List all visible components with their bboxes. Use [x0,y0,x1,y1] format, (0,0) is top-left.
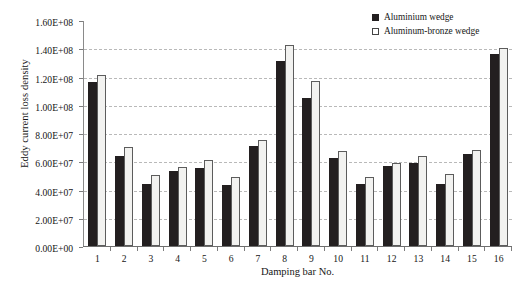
legend-label-series-a: Aluminium wedge [384,10,453,24]
x-axis-tick [138,247,165,251]
legend-swatch-icon-series-a [372,14,379,21]
x-axis-label: 9 [298,253,325,267]
x-axis-tick [111,247,138,251]
bar-series-b [231,177,240,246]
x-axis-label: 14 [432,253,459,267]
bar-group [352,21,379,246]
bar-group [245,21,272,246]
x-axis-label: 12 [378,253,405,267]
eddy-current-loss-density-chart: Eddy current loss density 0.00E+002.00E+… [0,0,524,294]
x-axis-label: 7 [245,253,272,267]
bar-group [405,21,432,246]
y-axis-tick: 2.00E+07 [79,219,83,220]
y-axis-tick-label: 1.00E+08 [35,101,73,112]
bar-series-a [88,82,97,246]
bar-series-a [409,163,418,246]
x-axis-tick [84,247,111,251]
bar-series-b [178,167,187,246]
x-axis-label: 16 [485,253,512,267]
bar-series-b [204,160,213,246]
x-axis-label: 1 [84,253,111,267]
y-axis-tick: 1.00E+08 [79,106,83,107]
bar-series-a [302,98,311,246]
bar-group [485,21,512,246]
x-axis-tick [164,247,191,251]
y-axis-tick: 0.00E+00 [79,247,83,248]
bar-group [111,21,138,246]
bar-group [271,21,298,246]
x-axis-title: Damping bar No. [83,266,512,277]
bar-series-b [151,175,160,246]
y-axis-tick-label: 0.00E+00 [35,243,73,254]
bar-series-b [472,150,481,246]
x-axis-tick [298,247,325,251]
bar-group [191,21,218,246]
bar-group [138,21,165,246]
x-axis-label: 5 [191,253,218,267]
x-axis-tick [432,247,459,251]
plot-area: 0.00E+002.00E+074.00E+076.00E+078.00E+07… [83,21,512,247]
bar-group [325,21,352,246]
bar-series-b [499,48,508,246]
x-axis-tick [405,247,432,251]
x-axis-label: 15 [459,253,486,267]
y-axis-tick-label: 2.00E+07 [35,214,73,225]
bar-series-b [445,174,454,246]
bar-series-a [329,158,338,246]
legend-item-series-b: Aluminum-bronze wedge [372,24,479,38]
bar-series-b [365,177,374,246]
x-axis-tick [459,247,486,251]
y-axis-tick: 8.00E+07 [79,134,83,135]
y-axis-tick-label: 1.40E+08 [35,45,73,56]
legend: Aluminium wedge Aluminum-bronze wedge [372,10,479,38]
y-axis-tick: 1.40E+08 [79,49,83,50]
y-axis-tick: 6.00E+07 [79,162,83,163]
x-axis-labels: 12345678910111213141516 [84,253,512,267]
legend-swatch-icon-series-b [372,28,379,35]
bar-series-b [285,45,294,246]
bar-series-b [97,75,106,246]
bar-group [298,21,325,246]
x-axis-label: 2 [111,253,138,267]
x-axis-ticks [84,247,512,251]
bar-series-b [124,147,133,246]
bar-series-a [195,168,204,246]
y-axis-tick: 1.60E+08 [79,21,83,22]
x-axis-tick [352,247,379,251]
bar-series-a [249,146,258,246]
x-axis-label: 8 [271,253,298,267]
bar-series-a [169,171,178,246]
y-axis-tick-label: 6.00E+07 [35,158,73,169]
legend-item-series-a: Aluminium wedge [372,10,479,24]
bar-series-a [222,185,231,246]
y-axis-tick-label: 4.00E+07 [35,186,73,197]
bar-series-a [115,156,124,246]
y-axis-tick-label: 1.20E+08 [35,73,73,84]
bar-group [164,21,191,246]
x-axis-label: 4 [164,253,191,267]
y-axis-tick: 1.20E+08 [79,78,83,79]
bar-group [378,21,405,246]
x-axis-label: 13 [405,253,432,267]
bar-series-b [338,151,347,246]
bar-series-a [383,166,392,247]
x-axis-tick [271,247,298,251]
y-axis-tick-label: 1.60E+08 [35,17,73,28]
x-axis-label: 3 [138,253,165,267]
x-axis-tick [485,247,512,251]
x-axis-tick [218,247,245,251]
x-axis-label: 6 [218,253,245,267]
bar-series-b [258,140,267,246]
y-axis-tick-label: 8.00E+07 [35,130,73,141]
bar-series-a [490,54,499,246]
bar-series-b [418,156,427,246]
x-axis-tick [191,247,218,251]
bar-series-a [463,154,472,246]
x-axis-tick [378,247,405,251]
x-axis-label: 11 [352,253,379,267]
bar-group [432,21,459,246]
y-axis-title: Eddy current loss density [19,4,30,224]
x-axis-label: 10 [325,253,352,267]
bar-series-a [436,184,445,246]
y-axis-tick: 4.00E+07 [79,191,83,192]
